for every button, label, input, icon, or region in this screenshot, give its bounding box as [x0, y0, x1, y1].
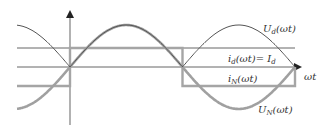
label-iN: iN(ωt): [228, 73, 257, 86]
label-id: id(ωt)= Id: [228, 53, 276, 66]
label-Ud: Ud(ωt): [263, 23, 296, 36]
rectifier-waveform-diagram: Ud(ωt) id(ωt)= Id iN(ωt) UN(ωt) ωt: [0, 0, 330, 128]
label-UN: UN(ωt): [258, 104, 293, 117]
x-axis-label: ωt: [304, 71, 317, 82]
diagram-canvas: Ud(ωt) id(ωt)= Id iN(ωt) UN(ωt) ωt: [0, 0, 330, 128]
